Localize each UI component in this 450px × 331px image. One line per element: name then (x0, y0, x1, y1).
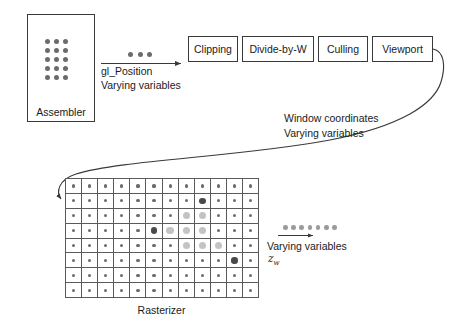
rasterizer-cell (66, 209, 82, 224)
sample-point (201, 259, 204, 262)
rasterizer-cell (98, 179, 114, 194)
sample-point (217, 229, 220, 232)
rasterizer-cell (227, 283, 243, 298)
sample-point (152, 199, 155, 202)
sample-point (88, 184, 91, 187)
sample-point (185, 289, 188, 292)
rasterizer-cell (146, 179, 162, 194)
sample-point (136, 274, 139, 277)
sample-point (183, 242, 190, 249)
rasterizer-cell (146, 283, 162, 298)
sample-point (72, 289, 75, 292)
assembler-label: Assembler (29, 106, 93, 118)
sample-point (249, 244, 252, 247)
sample-point (120, 289, 123, 292)
rasterizer-cell (211, 268, 227, 283)
rasterizer-cell (66, 224, 82, 239)
sample-point (88, 229, 91, 232)
rasterizer-cell (195, 283, 211, 298)
rasterizer-cell (195, 239, 211, 254)
assembler-dot (54, 39, 59, 44)
sample-point (88, 259, 91, 262)
rasterizer-cell (179, 268, 195, 283)
rasterizer-cell (211, 194, 227, 209)
sample-point (136, 184, 139, 187)
fragment-dot (291, 225, 296, 230)
sample-point (136, 259, 139, 262)
sample-point (136, 199, 139, 202)
sample-point (104, 184, 107, 187)
rasterizer-cell (227, 239, 243, 254)
rasterizer-cell (114, 224, 130, 239)
sample-point (152, 244, 155, 247)
rasterizer-cell (66, 239, 82, 254)
rasterizer-cell (114, 194, 130, 209)
fragment-dot (332, 225, 337, 230)
rasterizer-cell (195, 224, 211, 239)
rasterizer-cell (243, 253, 259, 268)
rasterizer-cell (146, 224, 162, 239)
gl-position-labels: gl_Position Varying variables (101, 65, 181, 92)
rasterizer-cell (98, 239, 114, 254)
pipeline-stage-clipping[interactable]: Clipping (188, 36, 238, 62)
sample-point (199, 212, 206, 219)
sample-point (72, 214, 75, 217)
rasterizer-cell (130, 239, 146, 254)
rasterizer-cell (195, 209, 211, 224)
rasterizer-cell (179, 209, 195, 224)
rasterizer-cell (163, 283, 179, 298)
sample-point (231, 257, 237, 263)
sample-point (104, 229, 107, 232)
sample-point (169, 199, 172, 202)
rasterizer-cell (114, 253, 130, 268)
pipeline-stage-culling[interactable]: Culling (318, 36, 368, 62)
fragment-dot (299, 225, 304, 230)
gl-position-dot (147, 52, 152, 57)
sample-point (249, 259, 252, 262)
varying-variables-label-2: Varying variables (284, 126, 379, 141)
gl-position-dot (128, 52, 133, 57)
sample-point (120, 184, 123, 187)
rasterizer-cell (130, 283, 146, 298)
rasterizer-grid (65, 178, 259, 298)
sample-point (120, 244, 123, 247)
sample-point (88, 289, 91, 292)
assembler-dot (63, 57, 68, 62)
sample-point (166, 227, 173, 234)
rasterizer-cell (163, 209, 179, 224)
assembler-dot (45, 57, 50, 62)
pipeline-stage-divide-by-w[interactable]: Divide-by-W (242, 36, 314, 62)
rasterizer-cell (243, 209, 259, 224)
rasterizer-cell (179, 224, 195, 239)
rasterizer-cell (98, 283, 114, 298)
sample-point (72, 259, 75, 262)
sample-point (201, 274, 204, 277)
rasterizer-cell (211, 179, 227, 194)
sample-point (120, 214, 123, 217)
rasterizer-cell (114, 268, 130, 283)
fragment-dot (308, 225, 313, 230)
rasterizer-cell (179, 283, 195, 298)
assembler-dot (54, 75, 59, 80)
sample-point (183, 212, 190, 219)
rasterizer-cell (211, 253, 227, 268)
sample-point (233, 274, 236, 277)
sample-point (249, 274, 252, 277)
rasterizer-cell (146, 253, 162, 268)
assembler-dot (54, 48, 59, 53)
varying-variables-label-1: Varying variables (101, 79, 181, 93)
rasterizer-cell (98, 224, 114, 239)
sample-point (152, 289, 155, 292)
sample-point (169, 184, 172, 187)
pipeline-stage-viewport[interactable]: Viewport (372, 36, 433, 62)
sample-point (104, 214, 107, 217)
sample-point (88, 199, 91, 202)
rasterizer-cell (130, 268, 146, 283)
sample-point (152, 274, 155, 277)
sample-point (201, 184, 204, 187)
assembler-dot (45, 48, 50, 53)
sample-point (104, 259, 107, 262)
rasterizer-cell (179, 194, 195, 209)
window-coordinates-labels: Window coordinates Varying variables (284, 111, 379, 140)
gl-position-dot (138, 52, 143, 57)
